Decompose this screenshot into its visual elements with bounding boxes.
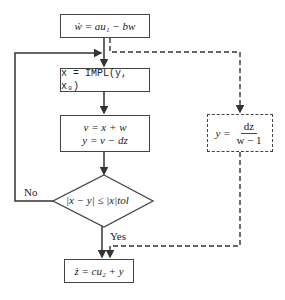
end-equation: ż = cu₂ + y [74, 265, 123, 278]
update-box: v = x + w y = v − dz [60, 115, 150, 152]
decision-condition: |x − y| ≤ |x|tol [66, 194, 129, 206]
update-line-1: v = x + w [84, 121, 127, 134]
start-equation: ẇ = au₁ − bw [75, 20, 136, 33]
no-label: No [24, 186, 37, 198]
update-line-2: y = v − dz [82, 134, 127, 147]
init-lhs: y = [215, 127, 230, 140]
impl-box: x = IMPL(y, x₀) [60, 68, 150, 92]
init-numerator: dz [241, 120, 257, 134]
init-fraction: dz w − 1 [233, 120, 264, 147]
impl-equation: x = IMPL(y, x₀) [61, 67, 149, 93]
end-box: ż = cu₂ + y [64, 259, 134, 283]
init-box: y = dz w − 1 [207, 114, 273, 152]
init-denominator: w − 1 [233, 134, 264, 147]
yes-label: Yes [110, 230, 126, 242]
start-box: ẇ = au₁ − bw [60, 14, 150, 38]
